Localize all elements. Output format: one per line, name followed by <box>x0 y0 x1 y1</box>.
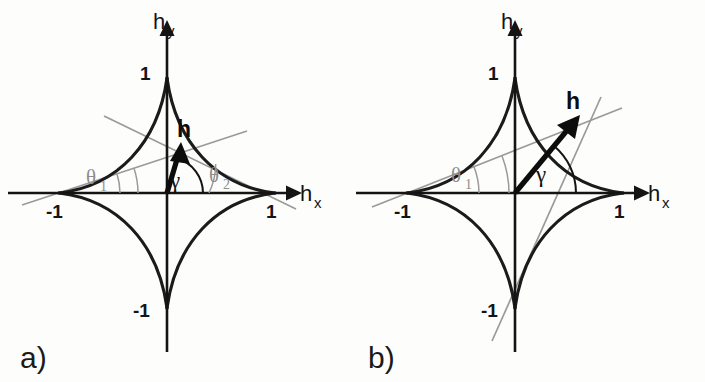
panel-b-gamma-label: γ <box>535 162 546 187</box>
panel-a-theta2-sublabel: 2 <box>223 177 230 192</box>
panel-b: h x h y -1 1 1 -1 h θ 1 γ b) <box>356 9 670 374</box>
panel-b-theta1-inner-arc <box>474 167 479 193</box>
panel-a-theta1-sublabel: 1 <box>100 179 107 194</box>
panel-a-theta2-label: θ <box>209 163 219 187</box>
panel-a-tick-x-neg-one: -1 <box>46 201 63 222</box>
astroid-quadrant-se <box>167 193 275 308</box>
panel-b-tick-y-pos-one: 1 <box>488 63 499 84</box>
panel-b-theta1-sublabel: 1 <box>465 177 472 192</box>
panel-b-steep-tangent-line <box>492 97 601 341</box>
panel-a-gamma-arc <box>178 159 204 194</box>
panel-b-y-axis-sublabel: y <box>515 22 523 39</box>
panel-b-tick-x-neg-one: -1 <box>394 201 411 222</box>
panel-b-caption: b) <box>368 341 395 374</box>
panel-b-x-axis-label: h <box>648 181 660 206</box>
panel-a-gamma-label: γ <box>169 168 180 193</box>
panel-a-tick-y-pos-one: 1 <box>140 63 151 84</box>
panel-b-x-axis-sublabel: x <box>662 194 670 211</box>
panel-b-tick-x-pos-one: 1 <box>614 201 625 222</box>
panel-b-theta1-label: θ <box>451 163 461 187</box>
panel-b-theta1-arc <box>502 156 509 193</box>
panel-a-y-axis-sublabel: y <box>167 22 175 39</box>
astroid-quadrant-sw <box>407 193 515 308</box>
panel-b-tick-y-neg-one: -1 <box>481 300 498 321</box>
panel-a-caption: a) <box>20 341 47 374</box>
astroid-quadrant-se <box>515 193 623 308</box>
panel-a-theta1-label: θ <box>86 165 96 189</box>
figure-canvas: h x h y -1 1 1 -1 h θ 1 θ 2 γ a) <box>0 0 705 382</box>
panel-a-x-axis-label: h <box>300 181 312 206</box>
panel-b-h-vector-label: h <box>566 88 580 114</box>
panel-a-h-vector-arrowhead <box>170 142 190 164</box>
panel-b-y-axis-label: h <box>501 9 513 34</box>
panel-a-x-axis-sublabel: x <box>314 194 322 211</box>
panel-a: h x h y -1 1 1 -1 h θ 1 θ 2 γ a) <box>8 9 322 374</box>
panel-a-tick-x-pos-one: 1 <box>266 201 277 222</box>
panel-a-theta1-inner-arc <box>134 168 138 193</box>
astroid-figure: h x h y -1 1 1 -1 h θ 1 θ 2 γ a) <box>0 0 705 382</box>
panel-a-y-axis-label: h <box>153 9 165 34</box>
panel-a-theta1-arc <box>117 174 120 193</box>
astroid-quadrant-sw <box>59 193 167 308</box>
panel-a-h-vector-label: h <box>177 116 191 142</box>
panel-a-tick-y-neg-one: -1 <box>133 300 150 321</box>
